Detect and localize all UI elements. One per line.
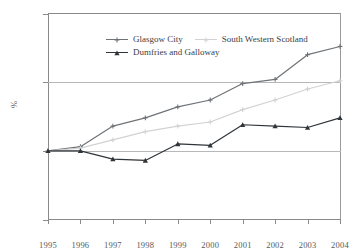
legend-row-2: Dumfries and Galloway xyxy=(106,46,320,59)
data-point-glasgow-city-1998 xyxy=(143,115,148,120)
legend-swatch-south-western-scotland-icon xyxy=(195,35,217,45)
x-tick-1997 xyxy=(113,220,114,224)
legend-item-glasgow-city: Glasgow City xyxy=(106,33,183,46)
legend-swatch-glasgow-city-icon xyxy=(106,35,128,45)
x-tick-2001 xyxy=(243,220,244,224)
series-line-glasgow-city xyxy=(48,46,340,150)
x-tick-2002 xyxy=(275,220,276,224)
legend-row-1: Glasgow City South Western Scotland xyxy=(106,33,320,46)
x-tick-1999 xyxy=(178,220,179,224)
data-point-glasgow-city-2004 xyxy=(338,44,343,49)
data-point-south-western-scotland-2004 xyxy=(338,78,343,83)
x-tick-2000 xyxy=(210,220,211,224)
series-south-western-scotland xyxy=(46,78,343,153)
legend-swatch-dumfries-and-galloway-icon xyxy=(106,48,128,58)
legend-item-dumfries-and-galloway: Dumfries and Galloway xyxy=(106,46,219,59)
data-point-south-western-scotland-1999 xyxy=(175,124,180,129)
legend-label-glasgow-city: Glasgow City xyxy=(133,33,183,46)
x-tick-1995 xyxy=(48,220,49,224)
x-tick-1998 xyxy=(145,220,146,224)
y-axis-title: % xyxy=(9,101,19,108)
plot-area: 50100150200 1995199619971998199920002001… xyxy=(48,13,341,220)
series-line-south-western-scotland xyxy=(48,81,340,151)
chart-legend: Glasgow City South Western Scotland Dumf… xyxy=(106,33,320,59)
data-point-glasgow-city-2000 xyxy=(208,98,213,103)
legend-label-dumfries-and-galloway: Dumfries and Galloway xyxy=(133,46,219,59)
data-point-glasgow-city-2001 xyxy=(240,81,245,86)
x-tick-1996 xyxy=(80,220,81,224)
data-point-south-western-scotland-1997 xyxy=(110,137,115,142)
x-tick-2004 xyxy=(340,220,341,224)
data-point-south-western-scotland-2000 xyxy=(208,120,213,125)
data-point-glasgow-city-1999 xyxy=(175,104,180,109)
x-tick-2003 xyxy=(308,220,309,224)
data-point-south-western-scotland-2002 xyxy=(273,98,278,103)
series-dumfries-and-galloway xyxy=(45,115,342,162)
data-point-dumfries-and-galloway-2004 xyxy=(337,115,342,120)
legend-label-south-western-scotland: South Western Scotland xyxy=(222,33,308,46)
data-point-south-western-scotland-1998 xyxy=(143,129,148,134)
data-point-south-western-scotland-2001 xyxy=(240,107,245,112)
legend-item-south-western-scotland: South Western Scotland xyxy=(195,33,308,46)
x-tick-label-2004: 2004 xyxy=(320,240,358,250)
data-point-south-western-scotland-2003 xyxy=(305,87,310,92)
series-glasgow-city xyxy=(46,44,343,153)
